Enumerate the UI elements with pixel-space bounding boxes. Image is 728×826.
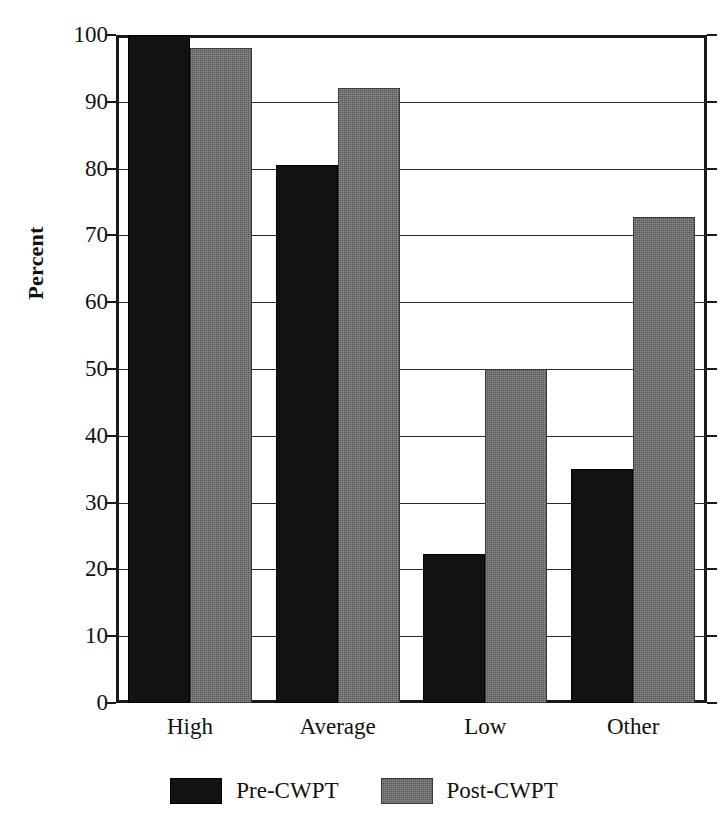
black-swatch-icon (170, 778, 222, 804)
y-axis-tick-label: 100 (36, 23, 108, 46)
y-axis-tick-right (707, 702, 717, 704)
x-axis-label-high: High (116, 712, 264, 742)
y-axis-tick-right (707, 568, 717, 570)
legend-label: Pre-CWPT (236, 778, 338, 804)
x-axis-label-average: Average (264, 712, 412, 742)
y-axis-tick-right (707, 34, 717, 36)
y-axis-tick (106, 168, 116, 170)
bar-post-cwpt-low (485, 369, 547, 703)
bar-pre-cwpt-high (128, 35, 190, 703)
y-axis-tick-label: 80 (36, 157, 108, 180)
bar-post-cwpt-other (633, 217, 695, 703)
bar-post-cwpt-high (190, 48, 252, 703)
x-axis-category-labels: HighAverageLowOther (116, 712, 707, 752)
y-axis-tick-labels: 1009080706050403020100 (28, 0, 108, 826)
bar-pre-cwpt-average (276, 165, 338, 703)
y-axis-tick (106, 34, 116, 36)
y-axis-tick-right (707, 435, 717, 437)
y-axis-tick (106, 435, 116, 437)
y-axis-tick-label: 20 (36, 557, 108, 580)
y-axis-tick-label: 60 (36, 290, 108, 313)
y-axis-tick-right (707, 301, 717, 303)
bar-post-cwpt-average (338, 88, 400, 703)
y-axis-tick-label: 30 (36, 491, 108, 514)
y-axis-tick (106, 368, 116, 370)
y-axis-tick-right (707, 635, 717, 637)
legend-item-post-cwpt[interactable]: Post-CWPT (381, 778, 558, 804)
bar-pre-cwpt-low (423, 554, 485, 703)
bar-pre-cwpt-other (571, 469, 633, 703)
bar-chart-figure: Percent 1009080706050403020100 HighAvera… (0, 0, 728, 826)
x-axis-label-other: Other (559, 712, 707, 742)
y-axis-tick (106, 234, 116, 236)
y-axis-tick-label: 10 (36, 624, 108, 647)
y-axis-tick-right (707, 502, 717, 504)
legend-label: Post-CWPT (447, 778, 558, 804)
y-axis-tick-label: 40 (36, 424, 108, 447)
gray-swatch-icon (381, 778, 433, 804)
y-axis-tick-right (707, 168, 717, 170)
y-axis-tick (106, 635, 116, 637)
y-axis-tick-label: 0 (36, 691, 108, 714)
bar-series-container (116, 35, 707, 703)
y-axis-tick (106, 568, 116, 570)
y-axis-tick (106, 301, 116, 303)
y-axis-tick-right (707, 101, 717, 103)
y-axis-tick (106, 502, 116, 504)
y-axis-tick-label: 50 (36, 357, 108, 380)
y-axis-tick-right (707, 368, 717, 370)
y-axis-tick (106, 702, 116, 704)
chart-legend: Pre-CWPTPost-CWPT (0, 778, 728, 804)
y-axis-tick-label: 90 (36, 90, 108, 113)
legend-item-pre-cwpt[interactable]: Pre-CWPT (170, 778, 338, 804)
x-axis-label-low: Low (412, 712, 560, 742)
y-axis-tick (106, 101, 116, 103)
y-axis-tick-right (707, 234, 717, 236)
y-axis-tick-label: 70 (36, 223, 108, 246)
